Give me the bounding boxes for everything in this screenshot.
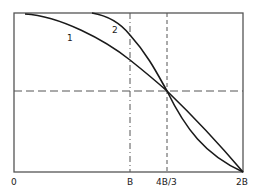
curve-1 [25,14,243,172]
x-tick-2B: 2B [236,177,248,187]
x-tick-0: 0 [11,177,17,187]
plot-frame [14,13,243,172]
chart-svg: 1 2 0 B 4B/3 2B [0,0,259,192]
chart-figure: 1 2 0 B 4B/3 2B [0,0,259,192]
curve-2-label: 2 [112,25,118,35]
curve-1-label: 1 [67,33,73,43]
x-tick-4B3: 4B/3 [156,177,177,187]
x-tick-B: B [127,177,133,187]
